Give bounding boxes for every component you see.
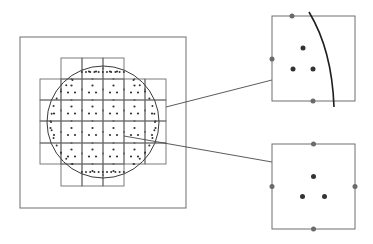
die-cell bbox=[61, 100, 82, 121]
callout-edge-die bbox=[270, 12, 356, 107]
die-dot bbox=[109, 91, 111, 93]
pad-dot bbox=[60, 89, 62, 91]
edge-dot bbox=[51, 129, 53, 131]
die-dot bbox=[130, 112, 132, 114]
edge-die-dot bbox=[81, 71, 83, 73]
edge-dot bbox=[56, 145, 58, 147]
die-cell bbox=[124, 143, 145, 164]
die-dot bbox=[109, 134, 111, 136]
edge-die-dot bbox=[102, 171, 104, 173]
pad-dot bbox=[92, 120, 94, 122]
pad-dot bbox=[144, 89, 146, 91]
pad-dot bbox=[123, 110, 125, 112]
die-dot bbox=[112, 127, 114, 129]
die-dot bbox=[95, 155, 97, 157]
pad-dot bbox=[92, 142, 94, 144]
pad-dot bbox=[71, 120, 73, 122]
edge-die-dot bbox=[114, 171, 116, 173]
pad-dot bbox=[123, 89, 125, 91]
die-dot bbox=[91, 84, 93, 86]
edge-die-dot bbox=[106, 171, 108, 173]
edge-dot bbox=[139, 158, 141, 160]
die-cell bbox=[61, 143, 82, 164]
die-dot bbox=[88, 155, 90, 157]
die-dot bbox=[137, 112, 139, 114]
edge-die-dot bbox=[106, 71, 108, 73]
die-dot bbox=[130, 91, 132, 93]
pad-dot bbox=[102, 153, 104, 155]
edge-dot bbox=[53, 137, 55, 139]
die-dot bbox=[88, 112, 90, 114]
edge-dot bbox=[60, 152, 62, 154]
die-cell bbox=[61, 164, 82, 186]
pad-dot bbox=[71, 99, 73, 101]
die-dot bbox=[116, 155, 118, 157]
die-dot bbox=[91, 127, 93, 129]
die-cell bbox=[103, 79, 124, 100]
edge-dot bbox=[144, 152, 146, 154]
die-cell bbox=[145, 143, 166, 164]
edge-die-dot bbox=[119, 171, 121, 173]
die-dot bbox=[112, 148, 114, 150]
pad-dot bbox=[81, 89, 83, 91]
die-cell bbox=[82, 121, 103, 143]
die-feature-dot bbox=[300, 194, 305, 199]
die-dot bbox=[70, 148, 72, 150]
edge-dot bbox=[139, 84, 141, 86]
edge-dot bbox=[53, 105, 55, 107]
bond-pad bbox=[311, 99, 316, 104]
pad-dot bbox=[102, 68, 104, 70]
die-dot bbox=[74, 91, 76, 93]
edge-die-dot bbox=[123, 71, 125, 73]
edge-die-dot bbox=[98, 71, 100, 73]
pad-dot bbox=[81, 110, 83, 112]
die-dot bbox=[67, 155, 69, 157]
die-dot bbox=[53, 134, 55, 136]
callout-box bbox=[272, 16, 355, 101]
die-cell bbox=[82, 143, 103, 164]
die-dot bbox=[70, 105, 72, 107]
die-grid bbox=[40, 58, 166, 186]
edge-dot bbox=[133, 163, 135, 165]
die-dot bbox=[88, 134, 90, 136]
edge-dot bbox=[151, 105, 153, 107]
callout-interior-die bbox=[270, 142, 358, 232]
bond-pad bbox=[270, 57, 275, 62]
bond-pad bbox=[290, 14, 295, 19]
die-dot bbox=[130, 134, 132, 136]
edge-dot bbox=[153, 113, 155, 115]
die-dot bbox=[130, 155, 132, 157]
die-cell bbox=[82, 100, 103, 121]
die-dot bbox=[137, 134, 139, 136]
die-dot bbox=[74, 112, 76, 114]
die-cell bbox=[145, 121, 166, 143]
edge-die-dot bbox=[102, 71, 104, 73]
die-dot bbox=[67, 91, 69, 93]
edge-dot bbox=[65, 84, 67, 86]
edge-die-dot bbox=[98, 171, 100, 173]
die-dot bbox=[67, 134, 69, 136]
edge-die-dot bbox=[89, 171, 91, 173]
die-feature-dot bbox=[322, 194, 327, 199]
die-feature-dot bbox=[291, 67, 296, 72]
die-dot bbox=[49, 127, 51, 129]
pad-dot bbox=[60, 131, 62, 133]
edge-dot bbox=[154, 121, 156, 123]
die-dot bbox=[151, 112, 153, 114]
edge-die-dot bbox=[110, 71, 112, 73]
edge-die-dot bbox=[110, 171, 112, 173]
die-cell bbox=[103, 100, 124, 121]
edge-dot bbox=[56, 97, 58, 99]
pad-dot bbox=[113, 142, 115, 144]
edge-dot bbox=[144, 90, 146, 92]
die-dot bbox=[70, 127, 72, 129]
die-dot bbox=[67, 112, 69, 114]
die-cell bbox=[40, 121, 61, 143]
edge-dot bbox=[153, 129, 155, 131]
pad-dot bbox=[102, 110, 104, 112]
die-dot bbox=[137, 155, 139, 157]
die-dot bbox=[95, 112, 97, 114]
pad-dot bbox=[113, 120, 115, 122]
die-cell bbox=[103, 143, 124, 164]
edge-die-dot bbox=[85, 171, 87, 173]
